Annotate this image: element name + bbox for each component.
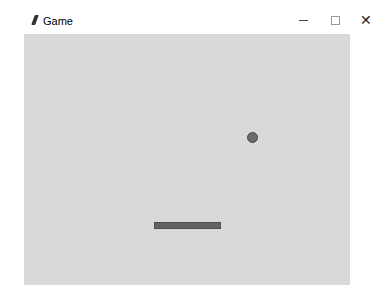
maximize-button[interactable] xyxy=(328,13,342,27)
maximize-icon xyxy=(331,16,340,25)
feather-icon xyxy=(31,15,39,25)
window-title: Game xyxy=(43,15,73,27)
minimize-icon xyxy=(299,20,308,21)
close-button[interactable]: ✕ xyxy=(359,13,372,27)
game-canvas[interactable] xyxy=(24,34,350,285)
paddle[interactable] xyxy=(154,222,221,229)
minimize-button[interactable] xyxy=(297,13,311,27)
ball xyxy=(247,132,258,143)
title-bar: Game ✕ xyxy=(0,0,372,34)
close-icon: ✕ xyxy=(359,13,372,27)
